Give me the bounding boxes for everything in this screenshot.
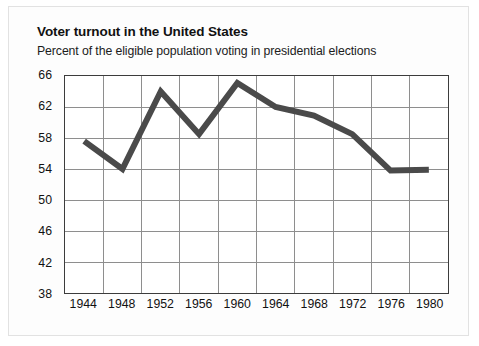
x-axis-tick-labels: 1944194819521956196019641968197219761980 xyxy=(64,297,449,319)
x-axis-tick-label: 1948 xyxy=(108,297,135,311)
x-axis-tick-label: 1968 xyxy=(301,297,328,311)
y-axis-tick-labels: 3842465054586266 xyxy=(9,75,59,294)
y-axis-tick-label: 42 xyxy=(38,256,52,270)
x-axis-tick-label: 1980 xyxy=(416,297,443,311)
chart-subtitle: Percent of the eligible population votin… xyxy=(37,44,376,58)
x-axis-tick-label: 1956 xyxy=(185,297,212,311)
plot-area xyxy=(64,75,449,294)
x-axis-tick-label: 1944 xyxy=(70,297,97,311)
y-axis-tick-label: 50 xyxy=(38,193,52,207)
y-axis-tick-label: 58 xyxy=(38,131,52,145)
chart-title: Voter turnout in the United States xyxy=(37,24,248,39)
x-axis-tick-label: 1960 xyxy=(224,297,251,311)
x-axis-tick-label: 1976 xyxy=(378,297,405,311)
y-axis-tick-label: 38 xyxy=(38,287,52,301)
y-axis-tick-label: 66 xyxy=(38,68,52,82)
x-axis-tick-label: 1964 xyxy=(262,297,289,311)
x-axis-tick-label: 1972 xyxy=(339,297,366,311)
y-axis-tick-label: 54 xyxy=(38,162,52,176)
series-voter-turnout xyxy=(65,76,448,293)
y-axis-tick-label: 62 xyxy=(38,99,52,113)
chart-card: Voter turnout in the United States Perce… xyxy=(8,6,469,336)
y-axis-tick-label: 46 xyxy=(38,224,52,238)
x-axis-tick-label: 1952 xyxy=(147,297,174,311)
